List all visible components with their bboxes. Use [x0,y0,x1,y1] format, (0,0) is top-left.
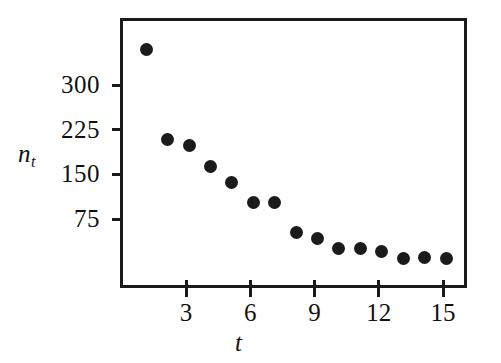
x-axis-label: t [0,330,501,355]
data-point [311,232,324,245]
data-point [161,133,174,146]
data-point [140,43,153,56]
data-point [290,226,303,239]
y-axis-tick-label: 150 [28,161,100,186]
data-point [268,196,281,209]
x-axis-tick-label: 3 [156,300,216,325]
data-point [397,252,410,265]
data-point [204,160,217,173]
x-axis-tick-mark [249,280,252,297]
x-axis-tick-mark [185,280,188,297]
x-axis-tick-mark [377,280,380,297]
x-axis-tick-label: 9 [285,300,345,325]
data-point [183,139,196,152]
y-axis-label-text: n [18,140,31,167]
data-point [354,242,367,255]
x-axis-tick-label: 12 [349,300,409,325]
x-axis-label-text: t [235,329,242,356]
data-point [247,196,260,209]
x-axis-tick-label: 15 [413,300,473,325]
scatter-plot-figure: 30022515075 nt 3691215 t [0,0,501,363]
x-axis-tick-mark [313,280,316,297]
x-axis-tick-label: 6 [220,300,280,325]
plot-frame [120,18,467,288]
data-point [332,242,345,255]
y-axis-tick-label: 225 [28,117,100,142]
y-axis-tick-label: 75 [28,206,100,231]
y-axis-label-subscript: t [31,153,35,170]
data-point [418,251,431,264]
plot-area [123,21,464,285]
data-point [225,176,238,189]
x-axis-tick-mark [442,280,445,297]
data-point [440,252,453,265]
y-axis-label: nt [18,141,35,169]
y-axis-tick-label: 300 [28,72,100,97]
data-point [375,245,388,258]
